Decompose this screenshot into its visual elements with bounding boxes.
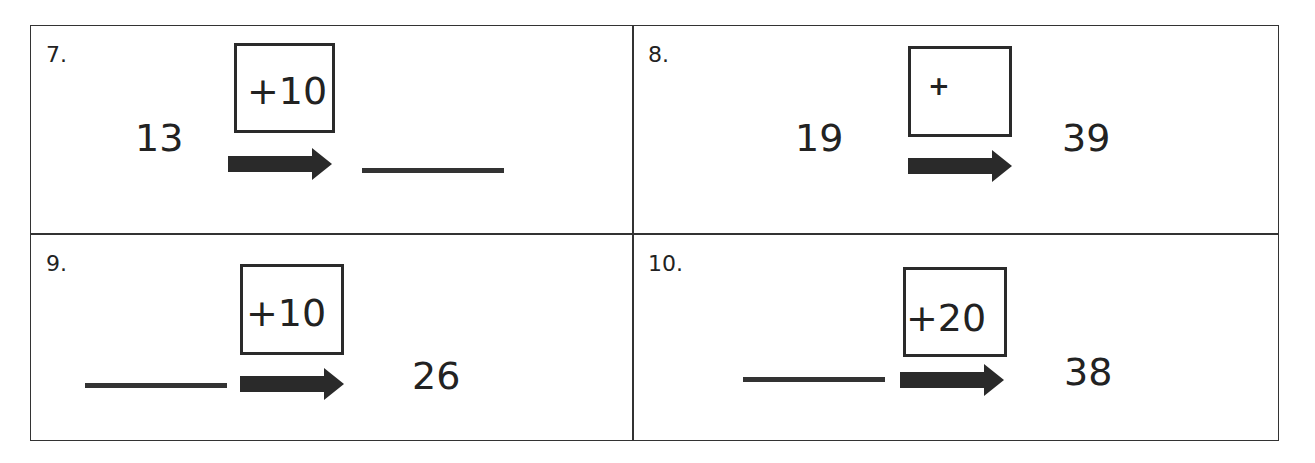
operator-text: +10 bbox=[247, 72, 327, 110]
operator-box-missing-value[interactable]: + bbox=[908, 46, 1012, 137]
right-arrow-icon bbox=[900, 364, 1004, 396]
operator-box: +20 bbox=[903, 267, 1007, 357]
operator-box: +10 bbox=[240, 264, 344, 355]
problem-label: 10. bbox=[648, 253, 683, 275]
problem-label: 9. bbox=[46, 253, 67, 275]
end-number: 39 bbox=[1062, 119, 1110, 157]
operator-box: +10 bbox=[234, 43, 335, 133]
answer-blank[interactable] bbox=[85, 383, 227, 388]
operator-text: +20 bbox=[906, 299, 986, 337]
answer-blank[interactable] bbox=[362, 168, 504, 173]
operator-text: + bbox=[928, 73, 950, 99]
end-number: 38 bbox=[1064, 353, 1112, 391]
right-arrow-icon bbox=[908, 150, 1012, 182]
horizontal-divider bbox=[31, 233, 1278, 235]
problem-label: 7. bbox=[46, 44, 67, 66]
problem-label: 8. bbox=[648, 44, 669, 66]
right-arrow-icon bbox=[240, 368, 344, 400]
right-arrow-icon bbox=[228, 148, 332, 180]
end-number: 26 bbox=[412, 357, 460, 395]
operator-text: +10 bbox=[246, 294, 326, 332]
start-number: 19 bbox=[795, 119, 843, 157]
start-number: 13 bbox=[135, 119, 183, 157]
answer-blank[interactable] bbox=[743, 377, 885, 382]
